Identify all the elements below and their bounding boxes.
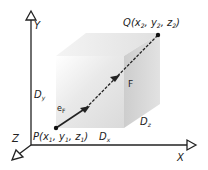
point-P-dot (54, 126, 58, 130)
vector-diagram: Y X Z Q(x2, y2, z2) P(x1, y1, z1) Dx Dy … (0, 0, 208, 170)
point-Q-label: Q(x2, y2, z2) (123, 17, 180, 29)
y-axis-label: Y (34, 20, 41, 31)
x-axis-arrowhead (187, 140, 196, 150)
dimension-dx-label: Dx (99, 131, 111, 143)
z-axis-label: Z (11, 133, 20, 144)
y-axis-arrowhead (26, 11, 36, 20)
z-axis (19, 145, 31, 154)
dimension-dz-label: Dz (140, 116, 152, 128)
point-Q-dot (156, 33, 160, 37)
box (56, 33, 160, 128)
point-P-label: P(x1, y1, z1) (33, 131, 88, 143)
vector-F-label: F (128, 79, 133, 89)
dimension-dy-label: Dy (34, 89, 46, 102)
box-front-face (56, 56, 124, 128)
x-axis-label: X (176, 152, 185, 163)
